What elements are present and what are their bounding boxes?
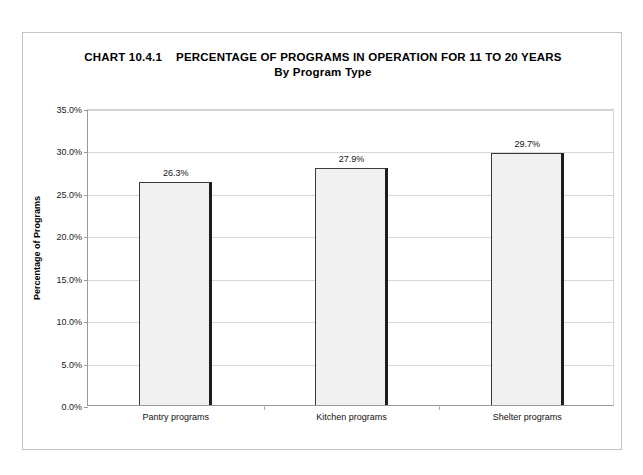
bar[interactable]: [491, 153, 564, 405]
bar-group[interactable]: 27.9%: [315, 110, 388, 405]
bar[interactable]: [139, 182, 212, 405]
y-tick-label: 15.0%: [56, 275, 82, 285]
bar-series: 26.3%Pantry programs27.9%Kitchen program…: [88, 110, 613, 405]
plot-area: 0.0%5.0%10.0%15.0%20.0%25.0%30.0%35.0% 2…: [87, 109, 614, 406]
category-label: Shelter programs: [493, 412, 562, 422]
category-label: Pantry programs: [143, 412, 210, 422]
y-tick-label: 0.0%: [61, 402, 82, 412]
category-label: Kitchen programs: [316, 412, 387, 422]
y-tick-label: 10.0%: [56, 317, 82, 327]
bar-group[interactable]: 26.3%: [139, 110, 212, 405]
y-tick-label: 25.0%: [56, 190, 82, 200]
chart-title-label: CHART 10.4.1: [84, 51, 162, 63]
chart-title: CHART 10.4.1PERCENTAGE OF PROGRAMS IN OP…: [23, 51, 623, 78]
y-tick-label: 30.0%: [56, 147, 82, 157]
y-axis-title: Percentage of Programs: [32, 168, 42, 328]
bar-value-label: 27.9%: [315, 154, 388, 164]
bar[interactable]: [315, 168, 388, 405]
bar-value-label: 29.7%: [491, 139, 564, 149]
y-tick-label: 5.0%: [61, 360, 82, 370]
y-tick-label: 35.0%: [56, 105, 82, 115]
y-tick-label: 20.0%: [56, 232, 82, 242]
category-tick: [439, 405, 440, 410]
chart-title-main: PERCENTAGE OF PROGRAMS IN OPERATION FOR …: [176, 51, 562, 63]
category-tick: [264, 405, 265, 410]
bar-value-label: 26.3%: [139, 168, 212, 178]
chart-frame: CHART 10.4.1PERCENTAGE OF PROGRAMS IN OP…: [22, 32, 622, 450]
y-tick-mark: [84, 407, 88, 408]
bar-group[interactable]: 29.7%: [491, 110, 564, 405]
cut-off-text-artifact: [0, 0, 643, 14]
chart-subtitle: By Program Type: [23, 66, 623, 78]
